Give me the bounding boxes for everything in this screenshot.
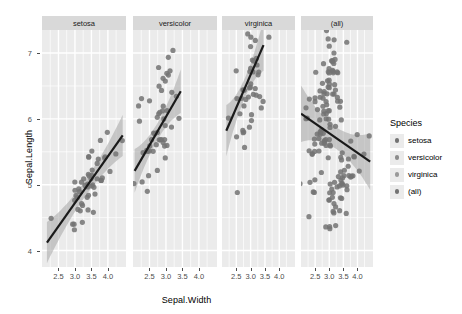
x-tick-label: 2.5 (53, 272, 63, 281)
legend-item-versicolor[interactable]: versicolor (390, 149, 442, 166)
legend-key-swatch (390, 134, 404, 148)
facet-strip-label: (all) (331, 19, 344, 28)
x-tick-mark (236, 268, 237, 271)
legend-item-all[interactable]: (all) (390, 183, 442, 200)
legend-point-icon (395, 138, 400, 143)
x-tick-label: 3.0 (70, 272, 80, 281)
y-axis-title: Sepal.Length (24, 130, 34, 184)
y-tick-label: 5 (20, 180, 32, 189)
y-tick-mark (37, 53, 40, 54)
x-tick-label: 3.5 (260, 272, 270, 281)
legend-item-virginica[interactable]: virginica (390, 166, 442, 183)
x-tick-mark (149, 268, 150, 271)
facet-strip-label: versicolor (159, 19, 191, 28)
x-tick-mark (182, 268, 183, 271)
legend-key-swatch (390, 185, 404, 199)
facet-strip-label: virginica (245, 19, 273, 28)
facet-strip-setosa: setosa (42, 16, 126, 30)
legend-point-icon (395, 155, 400, 160)
x-tick-mark (343, 268, 344, 271)
x-tick-label: 2.5 (231, 272, 241, 281)
legend-item-label: setosa (408, 136, 432, 145)
x-tick-mark (251, 268, 252, 271)
x-tick-mark (166, 268, 167, 271)
legend-item-label: (all) (408, 187, 421, 196)
legend-point-icon (395, 172, 400, 177)
x-tick-label: 3.5 (86, 272, 96, 281)
legend-key-swatch (390, 168, 404, 182)
x-tick-mark (279, 268, 280, 271)
legend-item-setosa[interactable]: setosa (390, 132, 442, 149)
facet-panel-virginica (222, 30, 295, 267)
legend-item-label: virginica (408, 170, 437, 179)
y-tick-label: 6 (20, 114, 32, 123)
x-tick-label: 4.0 (103, 272, 113, 281)
legend-item-label: versicolor (408, 153, 442, 162)
legend-items: setosaversicolorvirginica(all) (390, 132, 442, 200)
x-tick-mark (108, 268, 109, 271)
x-axis-title: Sepal.Width (0, 295, 373, 305)
facet-strip-virginica: virginica (222, 16, 295, 30)
y-tick-label: 4 (20, 246, 32, 255)
y-tick-mark (37, 251, 40, 252)
facet-panel-versicolor (133, 30, 217, 267)
x-tick-label: 3.5 (177, 272, 187, 281)
x-tick-label: 3.0 (161, 272, 171, 281)
facet-strip-all: (all) (301, 16, 373, 30)
facet-strip-versicolor: versicolor (133, 16, 217, 30)
facet-panel-setosa (42, 30, 126, 267)
x-tick-label: 3.0 (324, 272, 334, 281)
x-tick-label: 2.5 (310, 272, 320, 281)
legend-title: Species (390, 118, 442, 128)
x-tick-mark (329, 268, 330, 271)
x-tick-label: 2.5 (144, 272, 154, 281)
x-tick-label: 3.5 (338, 272, 348, 281)
y-tick-mark (37, 185, 40, 186)
faceted-scatter-plot: Sepal.Length Sepal.Width 4567 2.53.03.54… (0, 0, 462, 314)
x-tick-mark (91, 268, 92, 271)
facet-strip-label: setosa (73, 19, 95, 28)
x-tick-mark (75, 268, 76, 271)
x-tick-mark (315, 268, 316, 271)
legend-key-swatch (390, 151, 404, 165)
y-tick-label: 7 (20, 49, 32, 58)
x-tick-mark (357, 268, 358, 271)
y-tick-mark (37, 119, 40, 120)
x-tick-mark (199, 268, 200, 271)
x-tick-label: 4.0 (194, 272, 204, 281)
x-tick-label: 4.0 (352, 272, 362, 281)
x-tick-label: 3.0 (245, 272, 255, 281)
legend: Species setosaversicolorvirginica(all) (390, 118, 442, 200)
facet-panel-all (301, 30, 373, 267)
x-tick-mark (58, 268, 59, 271)
x-tick-label: 4.0 (274, 272, 284, 281)
x-tick-mark (265, 268, 266, 271)
legend-point-icon (395, 189, 400, 194)
